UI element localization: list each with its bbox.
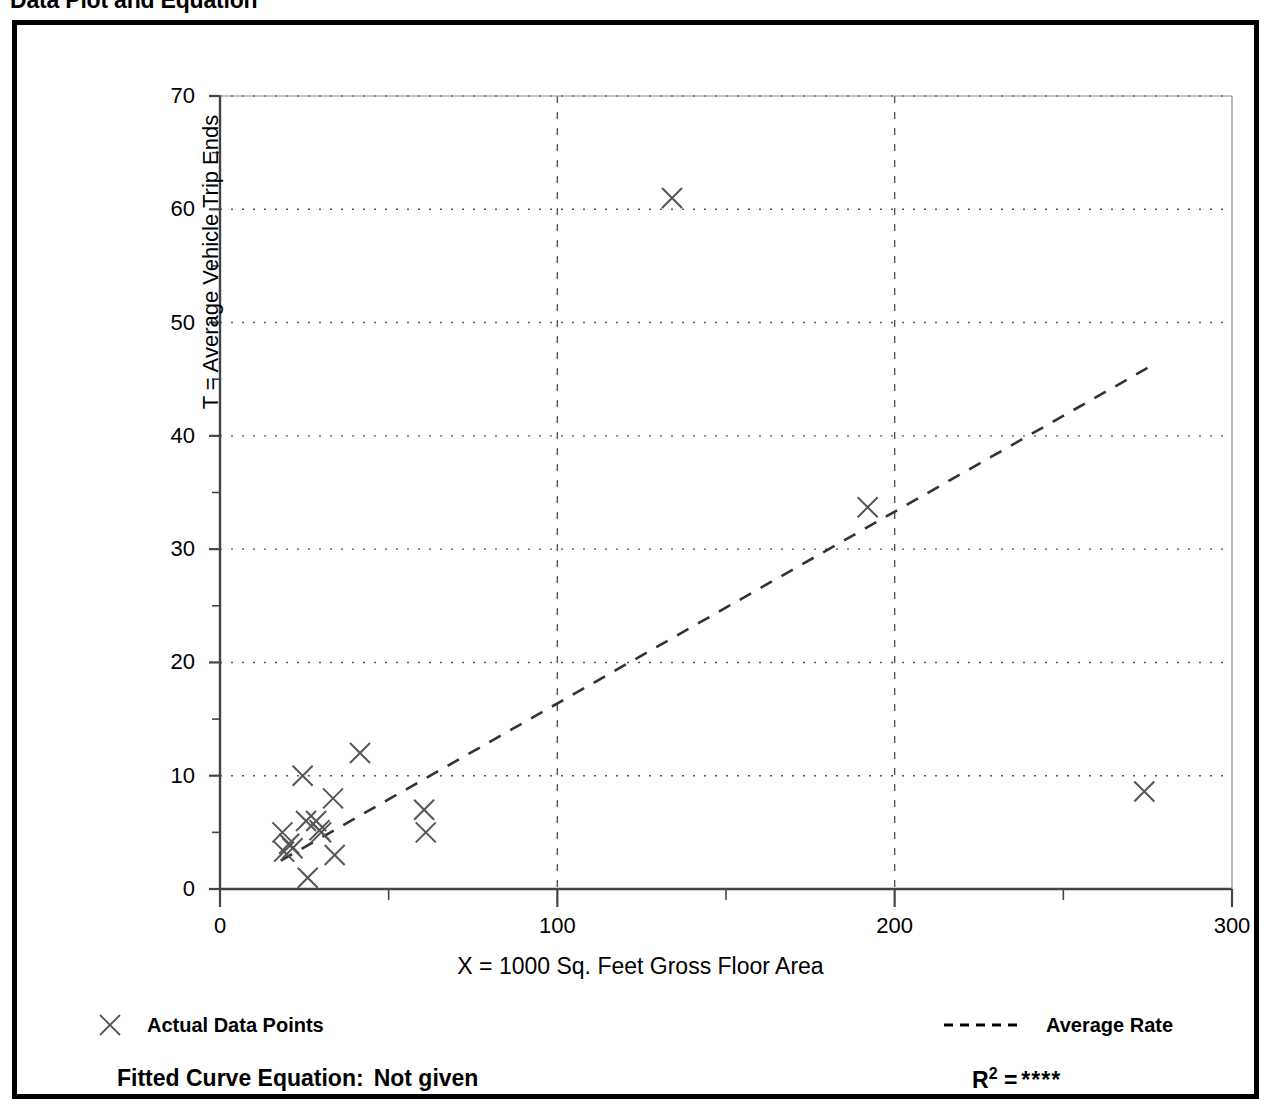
legend-item-actual-data-points: Actual Data Points	[95, 1003, 324, 1047]
y-tick-label: 10	[135, 765, 195, 787]
data-point-marker	[1134, 782, 1154, 802]
legend-item-average-rate: Average Rate	[942, 1003, 1173, 1047]
x-tick-label: 300	[1192, 915, 1272, 937]
data-point-marker	[858, 497, 878, 517]
legend: Actual Data Points Average Rate	[17, 1003, 1264, 1047]
fitted-curve-equation-value: Not given	[374, 1065, 479, 1091]
r-squared-annotation: R2 =****	[972, 1065, 1061, 1094]
y-tick-label: 20	[135, 651, 195, 673]
r-squared-value: ****	[1021, 1067, 1061, 1093]
y-tick-label: 50	[135, 312, 195, 334]
y-tick-label: 0	[135, 878, 195, 900]
y-tick-label: 70	[135, 85, 195, 107]
data-point-marker	[323, 788, 343, 808]
grid-lines	[220, 96, 1232, 889]
page-title: Data Plot and Equation	[10, 0, 257, 14]
dashed-line-icon	[942, 1019, 1024, 1031]
fitted-curve-equation-label: Fitted Curve Equation:	[117, 1065, 364, 1091]
x-tick-label: 200	[855, 915, 935, 937]
x-marker-icon	[95, 1010, 125, 1040]
fitted-curve-equation: Fitted Curve Equation:Not given	[117, 1065, 478, 1092]
plot-area	[220, 96, 1232, 889]
equation-row: Fitted Curve Equation:Not given R2 =****	[17, 1059, 1264, 1109]
x-axis-title: X = 1000 Sq. Feet Gross Floor Area	[17, 953, 1264, 980]
data-point-marker	[662, 188, 682, 208]
figure-frame: 010203040506070 0100200300 T = Average V…	[12, 20, 1259, 1099]
legend-label-actual-data-points: Actual Data Points	[147, 1014, 324, 1037]
data-point-marker	[296, 811, 316, 831]
r-squared-label: R	[972, 1067, 989, 1093]
axis-lines	[220, 96, 1232, 889]
r-squared-equals: =	[1004, 1067, 1017, 1093]
data-point-marker	[325, 845, 345, 865]
x-tick-label: 0	[180, 915, 260, 937]
tick-marks	[209, 96, 1232, 907]
data-point-markers	[272, 188, 1154, 888]
y-tick-label: 40	[135, 425, 195, 447]
y-axis-title: T = Average Vehicle Trip Ends	[198, 32, 224, 492]
data-point-marker	[416, 822, 436, 842]
y-tick-label: 30	[135, 538, 195, 560]
r-squared-exponent: 2	[989, 1065, 998, 1082]
y-tick-label: 60	[135, 198, 195, 220]
data-point-marker	[298, 868, 318, 888]
data-point-marker	[414, 800, 434, 820]
data-point-marker	[350, 743, 370, 763]
legend-label-average-rate: Average Rate	[1046, 1014, 1173, 1037]
average-rate-trendline	[281, 368, 1148, 861]
x-tick-label: 100	[517, 915, 597, 937]
